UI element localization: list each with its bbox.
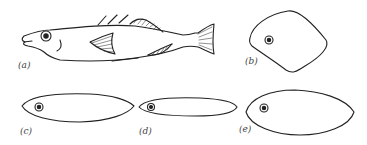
panel-label-d: (d): [139, 126, 152, 136]
fish-body-shapes-figure: [0, 0, 367, 145]
panel-label-e: (e): [239, 124, 251, 134]
outline-d: [139, 98, 237, 116]
panel-label-b: (b): [245, 56, 258, 66]
outline-c: [22, 94, 134, 122]
fish-side-view: [22, 15, 214, 61]
panel-label-a: (a): [18, 60, 30, 70]
outline-e: [246, 90, 354, 135]
panel-label-c: (c): [20, 126, 32, 136]
cross-section-b: [249, 11, 327, 72]
